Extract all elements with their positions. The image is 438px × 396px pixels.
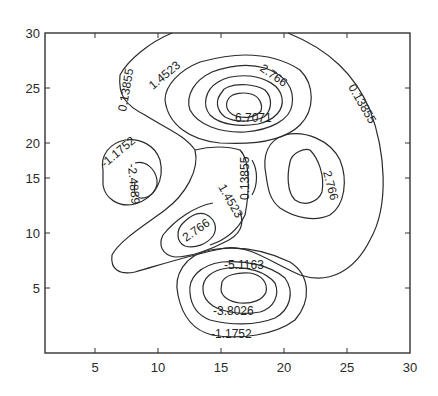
x-tick-label: 20 (277, 360, 291, 375)
contour-label: -1.1752 (211, 327, 252, 341)
contour-label: 6.7071 (235, 111, 272, 125)
contour-label: 0.13855 (238, 156, 252, 200)
contour-label: 0.13855 (115, 67, 136, 112)
y-tick-label: 25 (26, 81, 40, 96)
contour-label: 2.766 (320, 169, 341, 202)
contour-label: 0.13855 (345, 82, 379, 127)
y-tick-label: 20 (26, 136, 40, 151)
y-tick-label: 30 (26, 26, 40, 41)
x-tick-label: 5 (91, 360, 98, 375)
contour-label: -2.4889 (125, 163, 143, 205)
contour-label: 2.766 (180, 216, 213, 245)
y-axis: 5 10 15 20 25 30 (26, 26, 410, 296)
x-tick-label: 25 (340, 360, 354, 375)
contour-label: -3.8026 (213, 304, 254, 318)
contour-label: -5.1163 (224, 258, 264, 272)
contour-plot: 5 10 15 20 25 30 5 10 15 20 25 30 (0, 0, 438, 396)
x-tick-label: 30 (403, 360, 417, 375)
x-tick-label: 10 (151, 360, 165, 375)
y-tick-label: 15 (26, 171, 40, 186)
y-tick-label: 10 (26, 226, 40, 241)
x-tick-label: 15 (214, 360, 228, 375)
contour-labels: 0.13855 1.4523 2.766 6.7071 0.13855 -1.1… (98, 58, 379, 341)
y-tick-label: 5 (33, 281, 40, 296)
